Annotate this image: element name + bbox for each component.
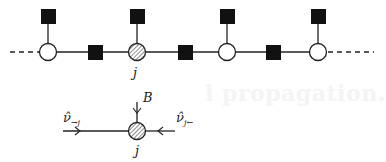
- variable-node-open: [310, 44, 327, 61]
- unary-factor-square: [220, 9, 235, 24]
- variable-node-open: [40, 44, 57, 61]
- unary-factor-square: [130, 9, 145, 24]
- detail-node-j-hatched: [129, 123, 146, 140]
- message-label-left: ν̂→j: [63, 110, 81, 127]
- pairwise-factor-square: [178, 45, 193, 60]
- variable-node-j-hatched: [129, 44, 146, 61]
- variable-node-open: [219, 44, 236, 61]
- unary-factor-square: [311, 9, 326, 24]
- node-j-label: j: [130, 65, 137, 80]
- pairwise-factor-square: [88, 45, 103, 60]
- message-label-right: ν̂j←: [176, 110, 193, 127]
- pairwise-factor-square: [266, 45, 281, 60]
- message-label-B: B: [142, 90, 153, 105]
- detail-node-j-label: j: [132, 143, 139, 158]
- unary-factor-square: [41, 9, 56, 24]
